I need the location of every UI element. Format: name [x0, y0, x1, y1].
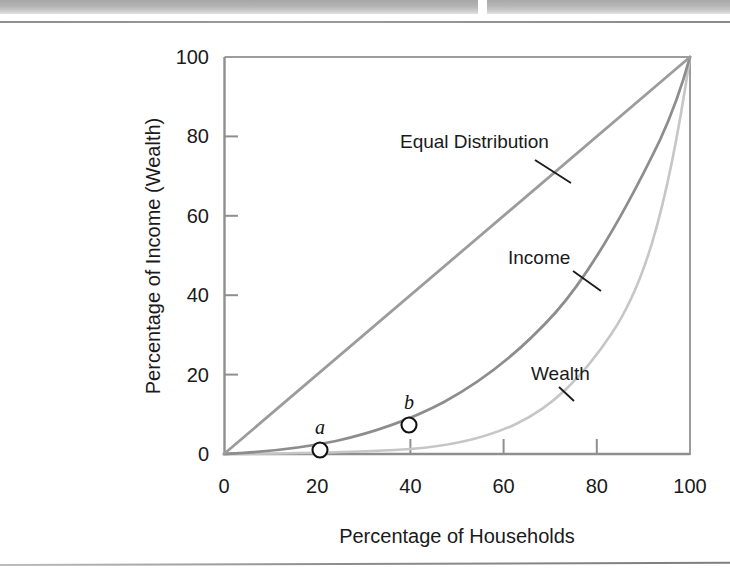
- y-tick-label-60: 60: [187, 205, 209, 227]
- y-tick-label-100: 100: [176, 46, 209, 68]
- chart-canvas: a b Equal Distribution Income Wealth 100…: [0, 0, 730, 582]
- y-axis-title: Percentage of Income (Wealth): [142, 118, 164, 394]
- x-tick-label-0: 0: [218, 475, 229, 497]
- data-point-b-label: b: [404, 391, 414, 413]
- leader-line-income: [573, 271, 601, 291]
- series-label-income: Income: [508, 247, 570, 268]
- y-tick-label-40: 40: [187, 284, 209, 306]
- x-tick-label-100: 100: [673, 475, 706, 497]
- y-tick-label-0: 0: [198, 443, 209, 465]
- y-tick-label-80: 80: [187, 125, 209, 147]
- y-axis-ticks: [225, 136, 238, 374]
- lorenz-curve-figure: a b Equal Distribution Income Wealth 100…: [0, 0, 730, 582]
- x-tick-label-20: 20: [306, 475, 328, 497]
- y-tick-label-20: 20: [187, 364, 209, 386]
- data-point-a-label: a: [315, 416, 325, 438]
- x-tick-label-40: 40: [399, 475, 421, 497]
- series-label-wealth: Wealth: [531, 363, 590, 384]
- series-label-equal-distribution: Equal Distribution: [400, 131, 549, 152]
- data-point-b-marker: [402, 418, 417, 433]
- x-tick-label-80: 80: [586, 475, 608, 497]
- data-point-a-marker: [313, 443, 328, 458]
- x-axis-title: Percentage of Households: [339, 525, 575, 547]
- x-tick-label-60: 60: [492, 475, 514, 497]
